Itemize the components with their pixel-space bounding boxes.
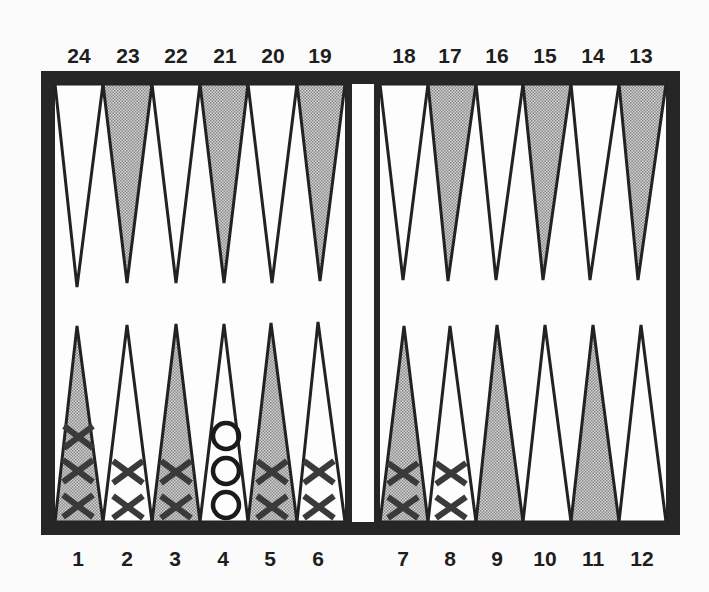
point-label-13: 13: [629, 44, 652, 67]
point-label-22: 22: [164, 44, 187, 67]
point-label-3: 3: [169, 547, 181, 570]
frame-top-edge: [41, 71, 680, 84]
point-label-9: 9: [491, 547, 503, 570]
bottom-point-labels: 1 2 3 4 5 6 7 8 9 10 11 12: [72, 547, 654, 570]
point-label-17: 17: [438, 44, 461, 67]
backgammon-board: 24 23 22 21 20 19 18 17 16 15 14 13: [0, 0, 709, 592]
point-label-2: 2: [121, 547, 133, 570]
point-label-10: 10: [533, 547, 556, 570]
point-label-23: 23: [116, 44, 139, 67]
point-label-6: 6: [312, 547, 324, 570]
point-label-15: 15: [533, 44, 557, 67]
top-point-labels: 24 23 22 21 20 19 18 17 16 15 14 13: [67, 44, 652, 67]
point-label-8: 8: [444, 547, 456, 570]
point-label-16: 16: [485, 44, 508, 67]
point-label-5: 5: [264, 547, 276, 570]
point-label-12: 12: [630, 547, 653, 570]
point-label-18: 18: [392, 44, 416, 67]
bar-left-stripe: [345, 71, 352, 535]
point-label-20: 20: [261, 44, 284, 67]
point-label-11: 11: [582, 547, 605, 570]
point-label-4: 4: [217, 547, 229, 570]
point-label-24: 24: [67, 44, 91, 67]
point-label-21: 21: [213, 44, 237, 67]
point-label-7: 7: [397, 547, 409, 570]
point-label-1: 1: [72, 547, 84, 570]
bar: [352, 84, 374, 522]
point-label-19: 19: [308, 44, 331, 67]
right-board-area: [380, 84, 666, 522]
point-label-14: 14: [581, 44, 605, 67]
bar-right-stripe: [374, 71, 380, 535]
left-board-area: [55, 84, 345, 522]
frame-bottom-edge: [41, 522, 680, 535]
